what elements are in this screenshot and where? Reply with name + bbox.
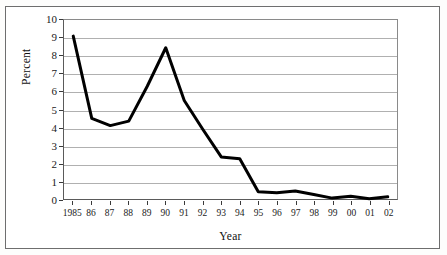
x-tick-label: 02: [374, 208, 404, 218]
y-tick-label: 1: [33, 177, 57, 188]
chart-title: [0, 0, 447, 5]
y-axis-label: Percent: [20, 48, 32, 85]
y-tick-label: 10: [33, 14, 57, 25]
x-tick-mark: [333, 201, 334, 205]
y-tick-mark: [59, 200, 63, 201]
x-tick-mark: [258, 201, 259, 205]
x-tick-mark: [277, 201, 278, 205]
x-tick-mark: [147, 201, 148, 205]
x-tick-mark: [221, 201, 222, 205]
plot-area: [63, 19, 398, 200]
y-tick-label: 5: [33, 105, 57, 116]
x-tick-mark: [128, 201, 129, 205]
x-tick-mark: [240, 201, 241, 205]
y-tick-label: 8: [33, 50, 57, 61]
x-axis-label: Year: [63, 230, 398, 242]
x-tick-mark: [184, 201, 185, 205]
y-tick-label: 9: [33, 32, 57, 43]
y-tick-label: 4: [33, 123, 57, 134]
y-tick-label: 2: [33, 159, 57, 170]
x-tick-mark: [351, 201, 352, 205]
y-tick-label: 6: [33, 86, 57, 97]
x-tick-mark: [314, 201, 315, 205]
y-tick-label: 7: [33, 68, 57, 79]
y-tick-label: 0: [33, 195, 57, 206]
x-tick-mark: [370, 201, 371, 205]
y-tick-label: 3: [33, 141, 57, 152]
x-tick-mark: [389, 201, 390, 205]
x-tick-mark: [165, 201, 166, 205]
chart-figure: Percent Year 012345678910 19858687888990…: [0, 0, 447, 255]
x-tick-mark: [203, 201, 204, 205]
x-tick-mark: [72, 201, 73, 205]
x-tick-mark: [91, 201, 92, 205]
x-tick-mark: [296, 201, 297, 205]
data-series-line: [64, 20, 397, 199]
x-tick-mark: [110, 201, 111, 205]
